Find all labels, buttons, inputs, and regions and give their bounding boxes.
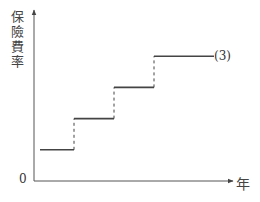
y-axis-label: 保險費率 xyxy=(9,9,25,69)
step-series xyxy=(40,56,214,150)
x-axis-label: 年 xyxy=(236,173,250,193)
chart-canvas xyxy=(0,0,260,202)
origin-label: 0 xyxy=(19,172,27,186)
step-chart: 保險費率 年 0 (3) xyxy=(0,0,260,202)
annotation-label: (3) xyxy=(214,49,231,63)
